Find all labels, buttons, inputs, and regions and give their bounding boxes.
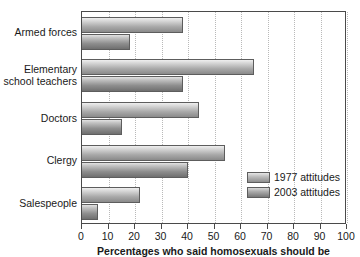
x-axis-title: Percentages who said homosexuals should …: [81, 245, 346, 257]
bar: [82, 59, 254, 75]
x-tick-mark: [267, 224, 268, 229]
x-tick-label: 90: [305, 230, 335, 242]
category-label: Doctors: [41, 112, 77, 124]
bar: [82, 17, 183, 33]
x-tick-mark: [320, 224, 321, 229]
x-tick-label: 30: [146, 230, 176, 242]
x-tick-label: 80: [278, 230, 308, 242]
x-tick-label: 60: [225, 230, 255, 242]
x-tick-label: 10: [93, 230, 123, 242]
category-label: Elementary school teachers: [3, 63, 77, 87]
x-tick-mark: [81, 224, 82, 229]
bar: [82, 145, 225, 161]
x-tick-mark: [346, 224, 347, 229]
legend-swatch-1977-icon: [247, 172, 270, 183]
legend-label-1977: 1977 attitudes: [274, 171, 340, 183]
x-tick-mark: [134, 224, 135, 229]
x-tick-mark: [187, 224, 188, 229]
x-tick-label: 50: [199, 230, 229, 242]
category-label: Clergy: [47, 154, 77, 166]
chart-legend: 1977 attitudes 2003 attitudes: [247, 171, 340, 198]
bar: [82, 204, 98, 220]
bar: [82, 187, 140, 203]
x-tick-mark: [161, 224, 162, 229]
bar-chart: Armed forcesElementary school teachersDo…: [0, 0, 360, 257]
x-tick-mark: [108, 224, 109, 229]
bar: [82, 162, 188, 178]
x-tick-mark: [214, 224, 215, 229]
legend-swatch-2003-icon: [247, 187, 270, 198]
bar: [82, 76, 183, 92]
legend-item-2003: 2003 attitudes: [247, 186, 340, 198]
x-tick-label: 0: [66, 230, 96, 242]
x-tick-label: 20: [119, 230, 149, 242]
bar: [82, 102, 199, 118]
x-tick-label: 100: [331, 230, 360, 242]
bar: [82, 119, 122, 135]
category-label: Armed forces: [15, 26, 77, 38]
legend-item-1977: 1977 attitudes: [247, 171, 340, 183]
bar: [82, 34, 130, 50]
category-label: Salespeople: [19, 197, 77, 209]
gridline-100: [347, 12, 349, 223]
legend-label-2003: 2003 attitudes: [274, 186, 340, 198]
x-tick-mark: [293, 224, 294, 229]
x-tick-mark: [240, 224, 241, 229]
x-tick-label: 70: [252, 230, 282, 242]
x-tick-label: 40: [172, 230, 202, 242]
